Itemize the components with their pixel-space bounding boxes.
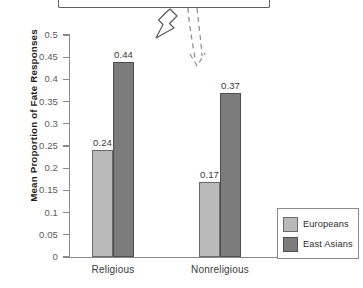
bar-value-label: 0.44: [108, 49, 140, 60]
y-axis-tick: [63, 212, 70, 213]
y-axis-tick: [63, 123, 70, 124]
y-axis-tick: [63, 168, 70, 169]
x-axis-label-religious: Religious: [68, 264, 158, 275]
y-axis-tick: [63, 145, 70, 146]
y-axis-tick-label: 0.05: [20, 229, 58, 240]
legend-item-europeans: Europeans: [283, 214, 354, 234]
y-axis-tick-label: 0: [20, 251, 58, 262]
y-axis-tick: [63, 190, 70, 191]
bar-religious-europeans: [92, 150, 113, 257]
y-axis-tick-label: 0.1: [20, 207, 58, 218]
legend-label-europeans: Europeans: [303, 219, 349, 229]
bar-religious-east-asians: [113, 62, 134, 257]
y-axis-tick-label: 0.15: [20, 184, 58, 195]
y-axis-tick-label: 0.4: [20, 73, 58, 84]
y-axis-tick-label: 0.45: [20, 51, 58, 62]
legend-swatch-europeans: [283, 217, 298, 232]
bar-nonreligious-east-asians: [220, 93, 241, 257]
y-axis-tick: [63, 79, 70, 80]
legend-label-east-asians: East Asians: [303, 239, 353, 249]
y-axis-tick: [63, 57, 70, 58]
bar-nonreligious-europeans: [199, 182, 220, 257]
y-axis-tick-label: 0.5: [20, 29, 58, 40]
bar-value-label: 0.37: [215, 80, 247, 91]
chart-canvas: Mean Proportion of Fate Responses 0.50.4…: [0, 0, 363, 288]
x-axis-label-nonreligious: Nonreligious: [175, 264, 265, 275]
y-axis-tick: [63, 234, 70, 235]
dashed-arrow-icon: [176, 6, 216, 72]
y-axis-tick: [63, 34, 70, 35]
y-axis-tick: [63, 101, 70, 102]
solid-block-arrow-icon: [144, 7, 180, 43]
y-axis-tick: [63, 256, 70, 257]
y-axis-tick-label: 0.3: [20, 118, 58, 129]
legend-item-east-asians: East Asians: [283, 234, 354, 254]
legend-swatch-east-asians: [283, 237, 298, 252]
y-axis-tick-label: 0.2: [20, 162, 58, 173]
y-axis-tick-label: 0.25: [20, 140, 58, 151]
y-axis-title: Mean Proportion of Fate Responses: [28, 21, 39, 211]
chart-legend: Europeans East Asians: [277, 208, 359, 259]
y-axis-tick-label: 0.35: [20, 96, 58, 107]
